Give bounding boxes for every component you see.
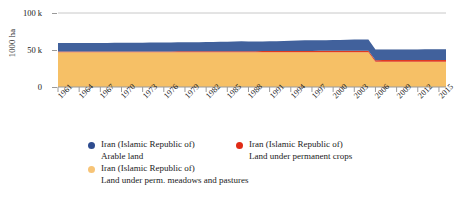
chart-legend: Iran (Islamic Republic of) Arable land I… [0, 136, 462, 188]
legend-label-arable-land: Iran (Islamic Republic of) Arable land [101, 139, 195, 162]
legend-item-permanent-crops[interactable]: Iran (Islamic Republic of) Land under pe… [236, 139, 416, 162]
legend-measure-meadows: Land under perm. meadows and pastures [101, 175, 248, 187]
legend-country-meadows: Iran (Islamic Republic of) [101, 163, 195, 173]
x-axis-labels: 1961196419671970197319761979198219851988… [0, 92, 462, 134]
legend-item-arable-land[interactable]: Iran (Islamic Republic of) Arable land [88, 139, 253, 162]
series-layers [58, 39, 446, 87]
legend-country-arable: Iran (Islamic Republic of) [101, 139, 195, 149]
legend-measure-crops: Land under permanent crops [249, 151, 352, 163]
legend-color-dot-icon [88, 142, 95, 149]
legend-country-crops: Iran (Islamic Republic of) [249, 139, 343, 149]
legend-measure-arable: Arable land [101, 151, 195, 163]
legend-label-permanent-crops: Iran (Islamic Republic of) Land under pe… [249, 139, 352, 162]
legend-color-dot-icon [236, 142, 243, 149]
legend-color-dot-icon [88, 166, 95, 173]
chart-container: 1000 ha 100 k 50 k 0 1961196419671970197… [0, 0, 462, 207]
legend-label-meadows-and-pastures: Iran (Islamic Republic of) Land under pe… [101, 163, 248, 186]
legend-item-meadows-and-pastures[interactable]: Iran (Islamic Republic of) Land under pe… [88, 163, 338, 186]
